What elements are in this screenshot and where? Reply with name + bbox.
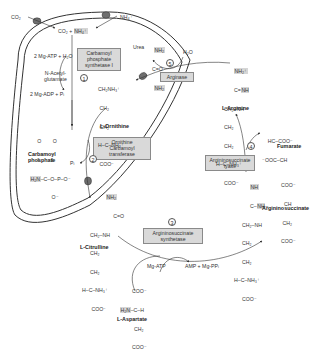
fumarate-label: Fumarate	[277, 143, 301, 149]
co2-inside-text: CO₂ +	[58, 28, 74, 34]
step5-water: H₂O	[183, 49, 193, 55]
carbamoyl-phosphate-structure: O O ‖ ‖ H₂N–C–O–P–O⁻ O⁻	[30, 126, 71, 213]
arg-nh: NH	[241, 87, 250, 93]
cit-co: C=O	[90, 213, 124, 219]
ornithine-label: L-Ornithine	[100, 123, 129, 129]
step1-cofactor-out: 2 Mg-ADP + Pᵢ	[30, 91, 64, 97]
argininosuccinate-label: Argininosuccinate	[262, 205, 309, 211]
cit-ch2nh: CH₂–NH	[90, 232, 124, 238]
cp-h2n: H₂N	[30, 176, 41, 182]
arg-nh2: NH₂⁺	[234, 68, 248, 74]
cit-ch2a: CH₂	[90, 250, 124, 256]
asp-h2n: H₂N	[120, 307, 131, 313]
activator-line2: glutamate	[44, 76, 67, 82]
as-nh: NH	[250, 184, 259, 190]
cp-main: –C–O–P–O⁻	[41, 176, 71, 182]
arginine-structure: NH₂⁺ C=NH CH₂–NH CH₂ CH₂ H–C–NH₃⁺ COO⁻	[224, 56, 249, 199]
fumarate-structure: HC–COO⁻ ⁻OOC–CH	[262, 126, 293, 176]
arginine-label: L-Arginine	[222, 105, 249, 111]
step1-cofactor-in: 2 Mg-ATP + H₂O	[34, 53, 73, 59]
urea-label: Urea	[133, 44, 144, 50]
urea-co: C=O	[152, 66, 165, 72]
carbamoyl-phosphate-label: Carbamoyl phosphate	[28, 151, 56, 163]
enzyme-line3: synthetase I	[80, 62, 118, 68]
nh4-inside-text: NH₄⁺	[74, 28, 88, 34]
cit-ch2b: CH₂	[90, 269, 124, 275]
cp-row-main: H₂N–C–O–P–O⁻	[30, 176, 71, 182]
fum-r2: ⁻OOC–CH	[262, 157, 293, 163]
step3-cofactor-in: Mg-ATP	[147, 263, 166, 269]
step3-cofactor-out: AMP + Mg-PPᵢ	[185, 263, 219, 269]
step2-number: 2	[89, 155, 97, 163]
nh4-outside-label: NH₄⁺	[120, 14, 133, 20]
as-r0: COO⁻	[281, 182, 296, 188]
cp-row-top: O O	[30, 138, 71, 144]
step2-pi-label: Pᵢ	[70, 160, 74, 166]
orn-r6: H–C–NH₃⁺	[98, 142, 124, 148]
enzyme-arginase: Arginase	[160, 72, 194, 82]
urea-nh2-top: NH₂	[154, 47, 165, 53]
aspartate-label: L-Aspartate	[117, 316, 147, 322]
step1-activator: N-Acetyl- glutamate	[44, 70, 67, 83]
orn-r0: CH₂NH₃⁺	[98, 86, 124, 92]
step1-number: 1	[80, 74, 88, 82]
enzyme-argininosuccinate-synthetase: Argininosuccinate synthetase	[143, 228, 203, 244]
cit-coo: COO⁻	[90, 306, 124, 312]
orn-r8: COO⁻	[98, 161, 124, 167]
urea-nh2-bottom: NH₂	[154, 85, 165, 91]
step3-number: 3	[168, 218, 176, 226]
cit-hc: H–C–NH₃⁺	[82, 287, 124, 293]
cp-name2: phosphate	[28, 157, 56, 163]
orn-r2: CH₂	[98, 105, 124, 111]
citrulline-label: L-Citrulline	[80, 244, 108, 250]
co2-nh4-inside-label: CO₂ + NH₄⁺	[58, 28, 88, 34]
enzyme-line1: Arginase	[163, 74, 191, 80]
argininosuccinate-succinyl: COO⁻ CH CH₂ COO⁻	[281, 170, 296, 257]
aspartate-structure: COO⁻ H₂N–C–H CH₂ COO⁻	[120, 276, 147, 353]
co2-outside-label: CO₂	[11, 14, 21, 20]
citrulline-structure: NH₂ C=O CH₂–NH CH₂ CH₂ H–C–NH₃⁺ COO⁻	[90, 182, 124, 325]
urea-structure: NH₂ C=O NH₂	[152, 35, 165, 103]
enzyme-carbamoyl-phosphate-synthetase: Carbamoyl phosphate synthetase I	[77, 48, 121, 71]
cit-nh2: NH₂	[106, 194, 117, 200]
as-r4: CH₂	[281, 220, 296, 226]
cp-row-bottom: O⁻	[30, 194, 71, 200]
as-r6: COO⁻	[281, 238, 296, 244]
enzyme-line2: synthetase	[146, 236, 200, 242]
step5-number: 5	[166, 59, 174, 67]
